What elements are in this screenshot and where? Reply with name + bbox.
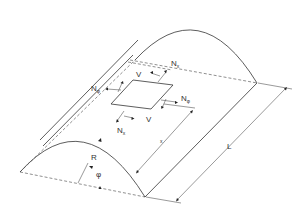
v-top-label: V [136, 70, 142, 79]
length-label: L [227, 142, 232, 151]
nphi-left-label: Nφ [91, 84, 101, 94]
x-extension-line [164, 104, 195, 108]
v-top-arrow-icon [150, 71, 153, 74]
nx-bottom-arrow-icon [116, 119, 119, 123]
l-extension-top [258, 83, 292, 89]
left-hidden-edge [20, 60, 135, 172]
v-left-arrow [118, 83, 122, 92]
x-dimension-label: x [160, 138, 163, 144]
nphi-right-arrow-icon [175, 101, 178, 104]
section-dashed-line [128, 62, 172, 70]
v-bottom-label: V [146, 115, 152, 124]
nx-bottom-arrow [117, 111, 124, 121]
back-arch [135, 30, 257, 83]
radius-label: R [91, 153, 97, 162]
l-dimension-line [177, 88, 286, 200]
nx-bottom-label: Nx [117, 126, 126, 136]
v-bottom-arrow-icon [132, 117, 135, 120]
radius-line [78, 163, 88, 183]
front-base-chord [20, 172, 145, 197]
angle-arrow-icon [89, 166, 93, 169]
nx-top-arrow [158, 72, 166, 82]
l-extension-bottom [146, 197, 181, 203]
back-base-chord [130, 60, 257, 83]
nphi-right-label: Nφ [181, 94, 191, 104]
shell-diagram: R φ Nx V Nφ Nφ V Nx x L [0, 0, 303, 214]
front-arch [20, 141, 145, 197]
nx-top-label: Nx [171, 59, 180, 69]
diagram-canvas: R φ Nx V Nφ Nφ V Nx x L [0, 0, 303, 214]
radius-arrow-icon [98, 138, 102, 142]
nphi-right-arrow [161, 100, 176, 102]
angle-label: φ [96, 170, 101, 179]
